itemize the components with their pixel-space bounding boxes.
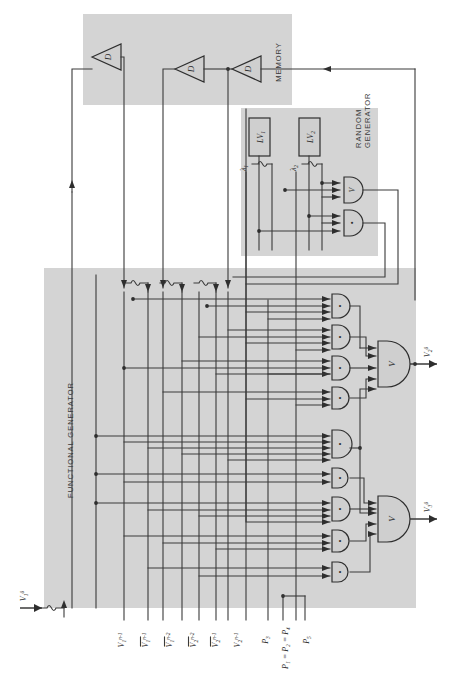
lv1-sub: 1 [260, 131, 266, 134]
and-gate-a8: • [332, 530, 349, 552]
and-a8-glyph: • [335, 539, 345, 542]
and-gate-a4: • [332, 387, 349, 409]
and-a9-glyph: • [335, 570, 345, 573]
lambda1-label: λ1 [239, 165, 249, 172]
delay-d2-label: D [186, 65, 196, 73]
and-a5-glyph: • [335, 442, 345, 445]
label-state-s4: V2n-2 [189, 632, 200, 647]
and-a2-glyph: • [335, 335, 345, 338]
functional-generator-label: FUNCTIONAL GENERATOR [66, 382, 75, 498]
label-output-v3: V30 [423, 502, 434, 513]
label-state-s5: V2n-1 [211, 632, 222, 647]
and-a1-glyph: • [335, 304, 345, 307]
rg-and-glyph: • [347, 221, 357, 224]
and-gate-a9: • [332, 562, 348, 582]
delay-d3-label: D [243, 65, 253, 73]
source-lv2: LV2 [299, 118, 320, 156]
and-gate-a3: • [332, 356, 350, 380]
and-gate-a7: • [332, 497, 350, 521]
lv2-sub: 2 [310, 131, 316, 134]
and-gate-a1: • [332, 294, 350, 318]
random-generator-label-line1: RANDOM [354, 109, 363, 148]
label-p124: P₁ = P₂ = P₄ [281, 627, 290, 670]
label-output-v2: V20 [423, 347, 434, 358]
and-a6-glyph: • [335, 476, 345, 479]
label-state-s6: V2n-1 [233, 632, 244, 647]
source-lv1: LV1 [249, 118, 270, 156]
label-state-s2: V1n-1 [141, 632, 152, 647]
and-gate-a6: • [332, 468, 348, 488]
label-state-s1: V1n-1 [117, 632, 128, 647]
memory-block-label: MEMORY [274, 42, 283, 81]
label-state-s3: V1n-2 [165, 632, 176, 647]
diagram-canvas: D D D MEMORY RANDOM GENERATOR LV1 LV2 λ1… [0, 0, 461, 682]
label-input-v1: V10 [19, 591, 30, 602]
and-a4-glyph: • [335, 396, 345, 399]
state-input-labels: V1n-1 V1n-1 V1n-2 V2n-2 V2n-1 [117, 632, 244, 647]
and-gate-a2: • [332, 325, 350, 349]
and-a7-glyph: • [335, 507, 345, 510]
label-p5: P5 [302, 636, 312, 645]
label-p3: P3 [261, 636, 271, 645]
random-generator-label-line2: GENERATOR [363, 93, 372, 149]
and-a3-glyph: • [335, 366, 345, 369]
delay-d1-label: D [103, 53, 113, 61]
